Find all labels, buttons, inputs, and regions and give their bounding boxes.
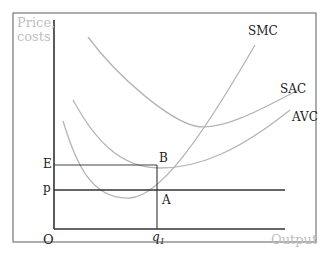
sac-curve bbox=[88, 37, 298, 127]
cost-curves-diagram: Price, costs Output O SMC SAC AVC E p B … bbox=[0, 0, 331, 264]
origin-label: O bbox=[43, 232, 54, 247]
b-label: B bbox=[159, 151, 168, 165]
avc-label: AVC bbox=[292, 110, 318, 124]
smc-curve bbox=[63, 45, 255, 198]
x-axis-label: Output bbox=[271, 232, 317, 247]
y-label-line2: costs bbox=[17, 30, 55, 44]
q1-letter: q bbox=[152, 230, 160, 244]
q1-subscript: 1 bbox=[160, 237, 165, 246]
q1-label: q1 bbox=[152, 230, 165, 246]
p-label: p bbox=[43, 181, 51, 195]
smc-label: SMC bbox=[248, 24, 278, 38]
e-label: E bbox=[43, 157, 52, 171]
sac-label: SAC bbox=[280, 82, 306, 96]
y-axis-label: Price, costs bbox=[17, 16, 55, 44]
frame bbox=[13, 13, 316, 242]
y-label-line1: Price, bbox=[17, 16, 55, 30]
a-label: A bbox=[162, 193, 171, 207]
